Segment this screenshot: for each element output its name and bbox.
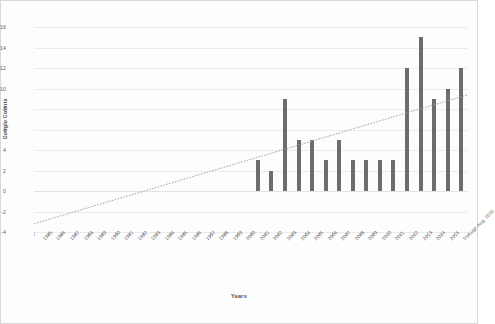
y-axis-title: Google Counts (2, 98, 8, 139)
bar (378, 160, 382, 191)
x-axis-tick-labels: 1985198619871988198919901991199219931994… (34, 238, 468, 298)
x-axis-tick (34, 232, 35, 236)
bar (351, 160, 355, 191)
y-axis-tick-label: 12 (0, 68, 6, 74)
bar (432, 99, 436, 191)
y-axis-tick-label: 14 (0, 48, 6, 54)
bar (324, 160, 328, 191)
bar (364, 160, 368, 191)
bar (446, 89, 450, 192)
bar (256, 160, 260, 191)
y-axis-tick-label: 10 (0, 89, 6, 95)
y-axis-tick-label: 2 (0, 171, 6, 177)
bar (310, 140, 314, 191)
y-axis-tick-label: 0 (0, 191, 6, 197)
y-axis-tick-label: -4 (0, 232, 6, 238)
bar (269, 171, 273, 192)
y-axis-tick-label: 4 (0, 150, 6, 156)
bar (459, 68, 463, 191)
bar (419, 37, 423, 191)
bar (283, 99, 287, 191)
bar (297, 140, 301, 191)
y-axis-tick-label: 16 (0, 27, 6, 33)
y-axis-tick-label: -2 (0, 212, 6, 218)
x-axis-title: Years (1, 293, 477, 299)
bar (405, 68, 409, 191)
bar (337, 140, 341, 191)
bar-series (34, 27, 468, 232)
bar (391, 160, 395, 191)
